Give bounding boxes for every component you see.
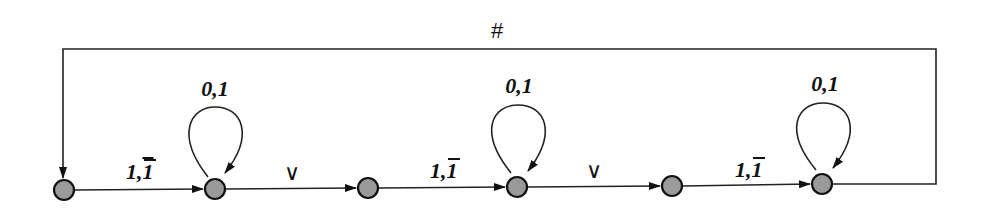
svg-text:0,1: 0,1	[811, 71, 839, 96]
state-node	[812, 174, 832, 194]
edge-s3-s4: 1,1	[379, 158, 505, 188]
svg-text:0,1: 0,1	[201, 76, 229, 101]
edge-s4-s5: ∨	[528, 158, 660, 187]
edge-label: 1,1	[430, 158, 458, 183]
edge-feedback: #	[63, 18, 936, 184]
automaton-diagram: # 1,1 ∨ 1,1 ∨ 1,1 0,1 0,1 0,1	[0, 0, 983, 211]
svg-text:0,1: 0,1	[505, 73, 533, 98]
edge-s2-s3: ∨	[226, 160, 356, 189]
edge-label-or: ∨	[284, 160, 300, 185]
state-node	[507, 177, 527, 197]
edge-s1-s2: 1,1	[75, 159, 203, 190]
self-loop-s6: 0,1	[797, 71, 851, 170]
edge-label-or: ∨	[586, 158, 602, 183]
edge-label-hash: #	[491, 18, 504, 43]
state-node	[54, 180, 74, 200]
edge-label: 1,1	[735, 157, 763, 182]
self-loop-s2: 0,1	[189, 76, 242, 177]
edge-s5-s6: 1,1	[683, 157, 810, 186]
state-node	[662, 176, 682, 196]
self-loop-s4: 0,1	[492, 73, 546, 173]
state-node	[358, 178, 378, 198]
state-node	[205, 179, 225, 199]
edge-label: 1,1	[126, 159, 154, 184]
